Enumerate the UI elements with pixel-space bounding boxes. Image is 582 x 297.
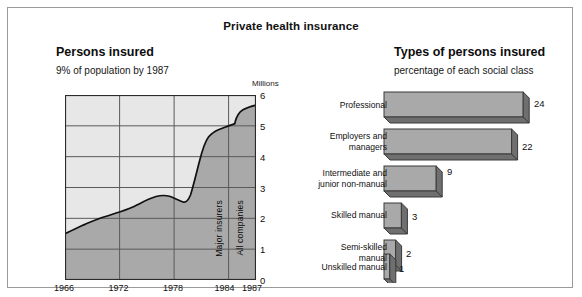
right-chart-title: Types of persons insured [394,45,545,59]
ytick-2: 2 [260,214,265,224]
annotation-major-insurers: Major insurers [214,200,224,257]
bar-value-unskilled-manual: 1 [399,264,404,274]
bar-label-employers-managers: Employers andmanagers [301,131,387,152]
left-chart-subtitle: 9% of population by 1987 [56,65,169,76]
bar-label-professional: Professional [301,100,387,111]
xtick-1972: 1972 [109,284,129,293]
xtick-1987: 1987 [242,284,262,293]
ytick-6: 6 [260,91,265,101]
types-of-persons-panel: Types of persons insured percentage of e… [298,8,574,289]
bar-professional [384,92,529,123]
bar-skilled-manual [384,203,407,234]
left-chart-title: Persons insured [56,45,154,59]
area-chart-plot [65,95,256,280]
ytick-4: 4 [260,153,265,163]
bar-label-skilled-manual: Skilled manual [301,210,387,221]
bar-value-skilled-manual: 3 [412,212,417,222]
ytick-5: 5 [260,122,265,132]
chart-frame: Private health insurance Persons insured… [7,7,573,288]
annotation-all-companies: All companies [235,200,245,256]
right-chart-subtitle: percentage of each social class [394,65,534,76]
bar-employers-managers [384,129,518,160]
bar-value-professional: 24 [534,99,545,109]
ytick-1: 1 [260,245,265,255]
xtick-1978: 1978 [163,284,183,293]
bar-label-semi-skilled: Semi-skilledmanual [301,242,387,263]
area-chart-svg [65,95,256,280]
bar-label-unskilled-manual: Unskilled manual [301,262,387,273]
bar-intermediate-junior-non-manual [384,166,442,197]
xtick-1966: 1966 [54,284,74,293]
bar-chart: Professional Employers andmanagers Inter… [298,88,574,283]
bar-label-intermediate: Intermediate andjunior non-manual [301,168,387,189]
bar-value-employers-managers: 22 [522,142,533,152]
bar-value-intermediate: 9 [447,167,452,177]
bar-value-semi-skilled: 2 [406,249,411,259]
persons-insured-panel: Persons insured 9% of population by 1987… [8,8,298,289]
left-axis-unit-label: Millions [252,79,279,88]
ytick-3: 3 [260,184,265,194]
chart-root: Private health insurance Persons insured… [0,0,582,297]
xtick-1984: 1984 [215,284,235,293]
